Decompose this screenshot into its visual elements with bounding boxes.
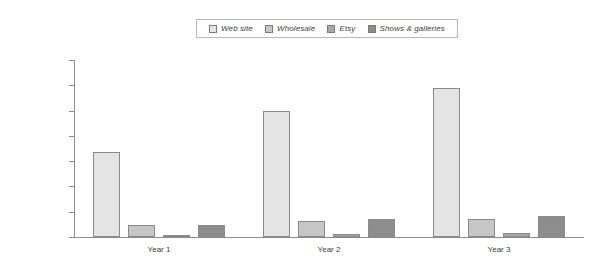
y-axis-line xyxy=(74,60,75,238)
bar xyxy=(468,219,495,237)
bar xyxy=(433,88,460,237)
y-axis-tick xyxy=(69,212,74,213)
y-axis-tick xyxy=(69,136,74,137)
bar xyxy=(128,225,155,237)
legend-item-web-site: Web site xyxy=(209,25,253,33)
legend-item-shows-and-galleries: Shows & galleries xyxy=(368,25,445,33)
bar xyxy=(198,225,225,237)
plot-area: $0$10,000$20,000$30,000$40,000$50,000$60… xyxy=(74,60,584,237)
legend-label-wholesale: Wholesale xyxy=(277,25,315,33)
legend-swatch-etsy xyxy=(327,25,335,33)
legend-swatch-shows-and-galleries xyxy=(368,25,376,33)
legend-item-etsy: Etsy xyxy=(327,25,355,33)
legend-label-shows-and-galleries: Shows & galleries xyxy=(380,25,445,33)
legend-label-etsy: Etsy xyxy=(339,25,355,33)
legend-item-wholesale: Wholesale xyxy=(265,25,315,33)
y-axis-tick xyxy=(69,161,74,162)
x-axis-label: Year 3 xyxy=(488,245,511,254)
bar xyxy=(263,111,290,237)
legend-swatch-wholesale xyxy=(265,25,273,33)
legend-swatch-web-site xyxy=(209,25,217,33)
bar xyxy=(503,233,530,237)
bar xyxy=(93,152,120,237)
chart-legend: Web site Wholesale Etsy Shows & gallerie… xyxy=(196,19,458,38)
bar-chart: Web site Wholesale Etsy Shows & gallerie… xyxy=(0,0,607,268)
bar xyxy=(298,221,325,237)
y-axis-tick xyxy=(69,111,74,112)
x-axis-label: Year 1 xyxy=(148,245,171,254)
y-axis-tick xyxy=(69,237,74,238)
bar xyxy=(333,234,360,237)
bar xyxy=(368,219,395,237)
bar xyxy=(163,235,190,237)
bar xyxy=(538,216,565,237)
y-axis-tick xyxy=(69,85,74,86)
y-axis-tick xyxy=(69,186,74,187)
legend-label-web-site: Web site xyxy=(221,25,253,33)
y-axis-tick xyxy=(69,60,74,61)
x-axis-line xyxy=(74,237,584,238)
x-axis-label: Year 2 xyxy=(318,245,341,254)
